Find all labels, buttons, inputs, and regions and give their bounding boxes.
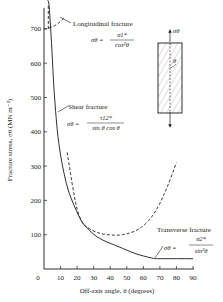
y-tick-label: 600 [31, 60, 42, 68]
x-axis-title: Off-axis angle, θ (degrees) [80, 287, 155, 295]
x-tick-label: 20 [74, 274, 82, 282]
transverse-fracture-curve [67, 152, 176, 235]
transverse-formula-num: σ2* [196, 235, 206, 242]
longitudinal-formula-num: σ1* [117, 31, 127, 38]
transverse-annotation: Transverse fracture σθ = σ2* sin²θ [155, 226, 213, 258]
inset-stress-label: σθ [173, 27, 180, 34]
shear-leader [58, 106, 68, 112]
transverse-formula-den: sin²θ [195, 247, 209, 254]
y-tick-label: 300 [31, 163, 42, 171]
shear-annotation: Shear fracture σθ = τ12* sin θ cos θ [58, 103, 124, 131]
x-ticks: 0102030405060708090 [36, 266, 197, 282]
y-ticks: 100200300400500600700 [31, 25, 48, 239]
fracture-stress-chart: 100200300400500600700 010203040506070809… [0, 0, 223, 302]
longitudinal-fracture-curve [44, 18, 64, 29]
y-tick-label: 100 [31, 231, 42, 239]
x-tick-label: 0 [36, 274, 40, 282]
x-tick-label: 40 [107, 274, 115, 282]
longitudinal-formula-den: cos²θ [115, 41, 130, 48]
x-tick-label: 50 [123, 274, 131, 282]
shear-formula-lhs: σθ = [67, 120, 79, 127]
x-tick-label: 90 [190, 274, 198, 282]
y-tick-label: 200 [31, 197, 42, 205]
y-tick-label: 500 [31, 94, 42, 102]
x-tick-label: 80 [173, 274, 181, 282]
y-tick-label: 700 [31, 25, 42, 33]
specimen-inset: σθ θ [158, 27, 182, 126]
longitudinal-formula-lhs: σθ = [91, 36, 103, 43]
transverse-leader [155, 246, 163, 258]
y-tick-label: 400 [31, 128, 42, 136]
x-tick-label: 60 [140, 274, 148, 282]
longitudinal-label: Longitudinal fracture [73, 20, 133, 28]
x-tick-label: 70 [156, 274, 164, 282]
y-axis-title: Fracture stress, σθ (MN m⁻²) [6, 98, 14, 181]
x-tick-label: 30 [90, 274, 98, 282]
longitudinal-annotation: Longitudinal fracture σθ = σ1* cos²θ [60, 17, 134, 48]
shear-formula-den: sin θ cos θ [92, 124, 120, 131]
shear-formula-num: τ12* [100, 114, 113, 121]
transverse-formula-lhs: σθ = [164, 244, 176, 251]
shear-label: Shear fracture [68, 103, 107, 111]
x-tick-label: 10 [57, 274, 65, 282]
transverse-label: Transverse fracture [157, 226, 211, 234]
chart-canvas: 100200300400500600700 010203040506070809… [0, 0, 223, 302]
